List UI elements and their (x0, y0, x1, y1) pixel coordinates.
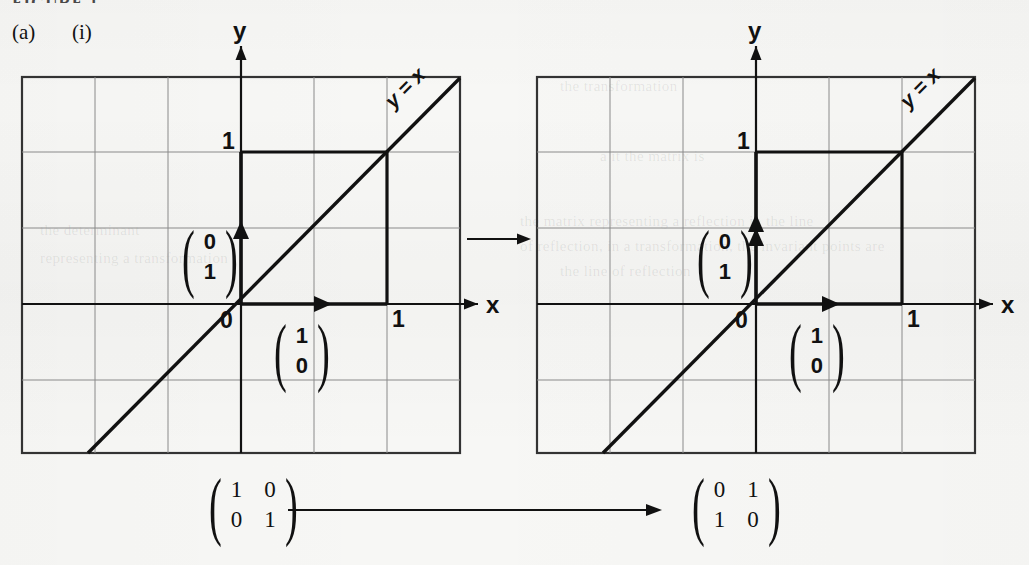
y-axis-arrowhead (751, 46, 762, 60)
paren-close: ) (740, 223, 753, 291)
part-label-a: (a) (12, 20, 35, 45)
cropped-figure-header: FIGURE 1 (12, 0, 99, 3)
origin-label: 0 (220, 307, 233, 334)
paren-close: ) (832, 317, 845, 385)
vector-component-bottom: 1 (719, 258, 731, 286)
x-tick-label-1: 1 (392, 306, 405, 333)
matrix-cell-r2c1: 0 (231, 506, 243, 534)
line-y-equals-x (88, 78, 460, 453)
vector-component-top: 1 (296, 322, 308, 350)
y-axis-label: y (748, 17, 761, 45)
i-hat-vector-label: ( 1 0 ) (270, 322, 334, 380)
vector-component-top: 1 (811, 322, 823, 350)
j-hat-image-vector-label: ( 0 1 ) (693, 228, 757, 286)
matrix-equation-row: ( 1 0 0 1 ) ( 0 1 1 0 ) (0, 466, 1029, 565)
y-axis-label: y (233, 17, 246, 45)
paren-open: ( (209, 471, 222, 539)
y-tick-label-1: 1 (222, 128, 235, 155)
source-matrix: ( 1 0 0 1 ) (205, 476, 301, 534)
transformation-arrow-svg (465, 225, 540, 253)
vector-component-top: 0 (719, 228, 731, 256)
reflected-graph-panel: y x 1 1 0 y = x ( 0 1 ) ( 1 0 ) (515, 0, 1029, 470)
vector-component-bottom: 1 (204, 258, 216, 286)
paren-close: ) (317, 317, 330, 385)
matrix-cell-r1c1: 0 (714, 476, 726, 504)
matrix-cell-r2c2: 1 (264, 506, 276, 534)
x-axis-arrowhead (979, 299, 993, 310)
vector-component-bottom: 0 (811, 352, 823, 380)
paren-open: ( (692, 471, 705, 539)
paren-open: ( (697, 223, 710, 291)
x-tick-label-1: 1 (907, 306, 920, 333)
matrix-cell-r2c1: 1 (714, 506, 726, 534)
reflected-graph-svg (515, 0, 1029, 470)
transformation-arrow (465, 225, 540, 253)
j-hat-vector-label: ( 0 1 ) (178, 228, 242, 286)
matrix-cell-r2c2: 0 (747, 506, 759, 534)
y-axis-arrowhead (236, 46, 247, 60)
paren-open: ( (789, 317, 802, 385)
vector-component-top: 0 (204, 228, 216, 256)
target-matrix: ( 0 1 1 0 ) (688, 476, 784, 534)
identity-graph-svg (0, 0, 515, 470)
x-axis-arrowhead (464, 299, 478, 310)
vector-component-bottom: 0 (296, 352, 308, 380)
identity-graph-panel: y x 1 1 0 y = x ( 0 1 ) ( 1 0 ) (0, 0, 515, 470)
paren-close: ) (768, 471, 781, 539)
equation-arrow (288, 498, 668, 522)
paren-close: ) (225, 223, 238, 291)
x-axis-label: x (486, 291, 499, 319)
line-y-equals-x (603, 78, 975, 453)
matrix-cell-r1c2: 1 (747, 476, 759, 504)
equation-arrow-svg (288, 498, 668, 522)
origin-label: 0 (735, 307, 748, 334)
y-tick-label-1: 1 (737, 128, 750, 155)
matrix-cell-r1c1: 1 (231, 476, 243, 504)
x-axis-label: x (1001, 291, 1014, 319)
i-hat-image-vector-label: ( 1 0 ) (785, 322, 849, 380)
paren-open: ( (274, 317, 287, 385)
subpart-label-i: (i) (72, 20, 92, 45)
matrix-cell-r1c2: 0 (264, 476, 276, 504)
paren-open: ( (182, 223, 195, 291)
